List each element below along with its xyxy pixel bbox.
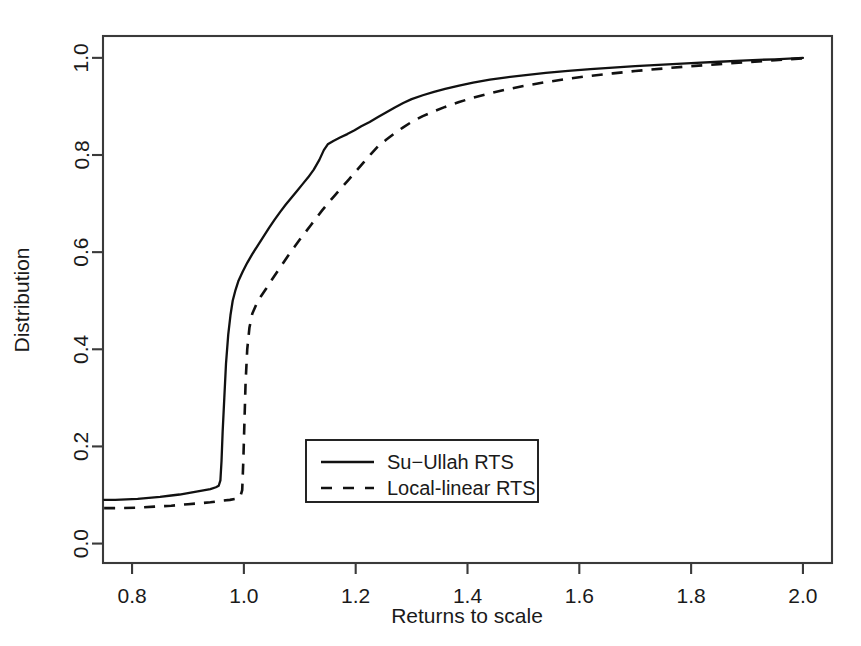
y-tick-label: 0.0 <box>70 529 93 558</box>
y-tick-label: 0.2 <box>70 432 93 461</box>
legend-label-su-ullah-rts: Su−Ullah RTS <box>387 451 514 473</box>
y-tick-label: 0.6 <box>70 238 93 267</box>
legend-label-local-linear-rts: Local-linear RTS <box>387 477 536 499</box>
y-tick-label: 0.8 <box>70 140 93 169</box>
y-axis-title: Distribution <box>10 247 33 352</box>
x-tick-label: 1.0 <box>229 584 258 607</box>
y-axis-ticks <box>92 58 103 544</box>
x-tick-label: 2.0 <box>788 584 817 607</box>
x-tick-label: 0.8 <box>117 584 146 607</box>
y-axis-tick-labels: 0.00.20.40.60.81.0 <box>70 43 93 558</box>
x-axis-ticks <box>132 563 803 574</box>
chart-figure: 0.81.01.21.41.61.82.0 0.00.20.40.60.81.0… <box>0 0 861 646</box>
x-tick-label: 1.2 <box>341 584 370 607</box>
x-tick-label: 1.8 <box>677 584 706 607</box>
chart-canvas: 0.81.01.21.41.61.82.0 0.00.20.40.60.81.0… <box>0 0 861 646</box>
legend: Su−Ullah RTS Local-linear RTS <box>306 440 538 502</box>
y-tick-label: 1.0 <box>70 43 93 72</box>
series-line-su-ullah-rts <box>104 58 803 500</box>
x-tick-label: 1.6 <box>565 584 594 607</box>
y-tick-label: 0.4 <box>70 334 93 364</box>
x-axis-title: Returns to scale <box>391 604 543 627</box>
